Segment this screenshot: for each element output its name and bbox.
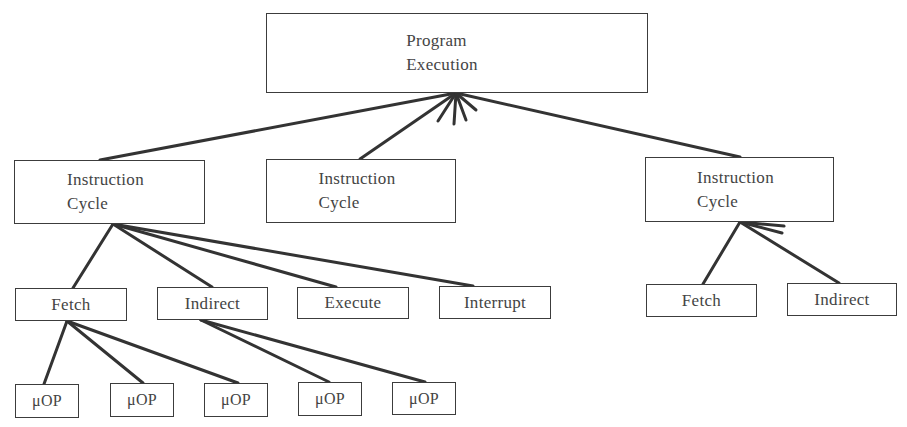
node-label: Instruction Cycle: [67, 168, 144, 216]
edge-fetch-uop1: [44, 321, 67, 384]
edge-ic1-fetch: [73, 224, 113, 288]
node-label: Indirect: [185, 292, 240, 316]
edge-root-ic3: [456, 93, 740, 157]
interrupt-node: Interrupt: [439, 286, 551, 319]
instruction-cycle-node-right: Instruction Cycle: [645, 157, 834, 222]
edge-ic3-indirect: [740, 222, 839, 283]
node-label: Execute: [325, 291, 382, 315]
edge-ic1-interrupt: [113, 224, 473, 286]
node-label: μOP: [127, 388, 157, 412]
node-label: Instruction Cycle: [319, 167, 396, 215]
edge-fetch-uop2: [67, 321, 143, 383]
fetch-node-right: Fetch: [646, 284, 757, 317]
edge-ic3-fetch: [703, 222, 740, 284]
micro-op-node: μOP: [298, 382, 362, 416]
instruction-cycle-node-middle: Instruction Cycle: [266, 159, 456, 223]
indirect-node-left: Indirect: [157, 287, 268, 320]
micro-op-node: μOP: [204, 383, 268, 417]
micro-op-node: μOP: [392, 382, 456, 415]
micro-op-node: μOP: [110, 383, 174, 417]
node-label: Program Execution: [406, 29, 478, 77]
node-label: μOP: [315, 387, 345, 411]
node-label: μOP: [221, 388, 251, 412]
instruction-cycle-node-left: Instruction Cycle: [14, 160, 205, 224]
fetch-node-left: Fetch: [15, 288, 127, 321]
node-label: Indirect: [814, 288, 869, 312]
micro-op-node: μOP: [15, 384, 79, 418]
node-label: μOP: [409, 387, 439, 411]
node-label: μOP: [32, 389, 62, 413]
node-label: Fetch: [682, 289, 721, 313]
edge-root-ic1: [100, 93, 456, 160]
program-execution-node: Program Execution: [266, 13, 648, 93]
indirect-node-right: Indirect: [787, 283, 897, 316]
node-label: Interrupt: [464, 291, 526, 315]
edge-fetch-uop3: [67, 321, 238, 383]
execute-node: Execute: [297, 287, 409, 319]
node-label: Instruction Cycle: [697, 166, 774, 214]
node-label: Fetch: [51, 293, 90, 317]
